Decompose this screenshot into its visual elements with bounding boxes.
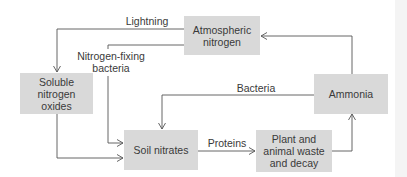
label-proteins: Proteins xyxy=(200,137,254,149)
soluble-to-soil-arrow xyxy=(57,114,123,158)
bacteria-arrow xyxy=(162,95,314,129)
node-plant-animal-waste: Plant and animal waste and decay xyxy=(256,130,332,172)
nitrogen-fixing-line xyxy=(108,45,184,49)
node-atmospheric-nitrogen: Atmospheric nitrogen xyxy=(184,16,260,55)
plant-to-ammonia-arrow xyxy=(332,114,352,151)
label-nitrogen-fixing-bacteria: Nitrogen-fixing bacteria xyxy=(66,50,156,74)
nitrogen-fixing-arrow xyxy=(108,76,123,143)
label-lightning: Lightning xyxy=(110,15,184,27)
node-soil-nitrates: Soil nitrates xyxy=(124,130,198,170)
node-soluble-nitrogen-oxides: Soluble nitrogen oxides xyxy=(20,73,93,114)
node-ammonia: Ammonia xyxy=(314,74,388,114)
label-bacteria: Bacteria xyxy=(226,82,286,94)
ammonia-to-atmospheric-arrow xyxy=(261,36,352,74)
